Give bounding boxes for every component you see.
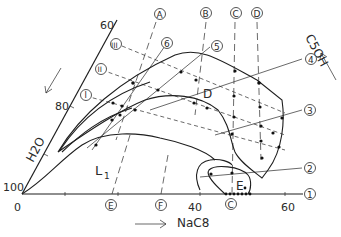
data-point bbox=[209, 172, 212, 175]
tick bbox=[70, 106, 74, 108]
data-point bbox=[120, 104, 123, 107]
label-4: 4 bbox=[306, 54, 317, 65]
line-D bbox=[257, 22, 261, 160]
line-B bbox=[195, 22, 206, 115]
label-I: I bbox=[81, 90, 92, 101]
data-point bbox=[205, 106, 208, 109]
h2o-label: H2O bbox=[23, 135, 48, 165]
nac8-label: NaC8 bbox=[177, 216, 209, 230]
data-point bbox=[233, 69, 236, 72]
data-point bbox=[233, 193, 236, 196]
label-C-bottom: C bbox=[226, 199, 237, 210]
data-point bbox=[118, 113, 121, 116]
d-region-upper bbox=[58, 52, 283, 178]
data-point bbox=[249, 193, 252, 196]
data-point bbox=[110, 118, 113, 121]
data-point bbox=[133, 108, 136, 111]
line-F bbox=[161, 155, 168, 194]
label-E-bottom: E bbox=[106, 200, 117, 211]
region-l1-subscript: 1 bbox=[104, 171, 110, 181]
left-tick-60: 60 bbox=[100, 19, 114, 32]
tick bbox=[44, 154, 48, 156]
data-point bbox=[192, 101, 195, 104]
line-A bbox=[116, 22, 156, 140]
label-5: 5 bbox=[212, 41, 223, 52]
data-point bbox=[237, 193, 240, 196]
line-4 bbox=[150, 59, 302, 110]
svg-text:2: 2 bbox=[307, 164, 313, 174]
label-B: B bbox=[201, 8, 212, 19]
inner-curve-1 bbox=[60, 82, 150, 150]
label-D: D bbox=[252, 8, 263, 19]
data-point bbox=[258, 105, 261, 108]
left-tick-100: 100 bbox=[3, 181, 24, 194]
l1-boundary bbox=[22, 134, 215, 194]
data-point bbox=[259, 139, 262, 142]
line-I bbox=[86, 96, 285, 150]
region-l1: L bbox=[95, 163, 103, 178]
data-points bbox=[94, 69, 283, 195]
region-e: E bbox=[236, 179, 244, 193]
data-point bbox=[271, 131, 274, 134]
data-point bbox=[232, 115, 235, 118]
left-axis bbox=[22, 20, 117, 194]
label-1: 1 bbox=[305, 189, 316, 200]
data-point bbox=[241, 193, 244, 196]
svg-text:F: F bbox=[158, 201, 163, 211]
arrow-down-left-icon bbox=[46, 68, 61, 93]
line-E bbox=[112, 135, 130, 194]
svg-text:A: A bbox=[157, 10, 164, 20]
data-point bbox=[244, 187, 247, 190]
bottom-tick-40: 40 bbox=[188, 201, 202, 214]
data-point bbox=[232, 94, 235, 97]
data-point bbox=[94, 143, 97, 146]
left-axis-label: H2O bbox=[23, 68, 61, 164]
data-point bbox=[245, 193, 248, 196]
svg-text:1: 1 bbox=[307, 190, 313, 200]
data-point bbox=[259, 124, 262, 127]
bottom-axis-label: NaC8 bbox=[135, 216, 209, 230]
data-point bbox=[179, 70, 182, 73]
bottom-tick-60: 60 bbox=[281, 201, 295, 214]
label-3: 3 bbox=[305, 105, 316, 116]
svg-text:3: 3 bbox=[307, 106, 313, 116]
bottom-tick-0: 0 bbox=[14, 201, 21, 214]
svg-text:C: C bbox=[233, 9, 239, 19]
svg-text:II: II bbox=[98, 65, 102, 74]
data-point bbox=[131, 81, 135, 85]
label-6: 6 bbox=[162, 38, 173, 49]
label-C: C bbox=[231, 8, 242, 19]
label-F-bottom: F bbox=[156, 200, 167, 211]
data-point bbox=[257, 81, 261, 85]
label-II: II bbox=[96, 64, 107, 75]
phase-diagram: 0 40 60 60 80 100 NaC8 H2O C5OH bbox=[0, 0, 341, 237]
region-d: D bbox=[203, 87, 212, 101]
data-point bbox=[280, 116, 283, 119]
data-point bbox=[229, 193, 232, 196]
svg-text:III: III bbox=[111, 41, 118, 50]
data-point bbox=[230, 171, 233, 174]
e-region bbox=[208, 167, 251, 194]
data-point bbox=[156, 88, 159, 91]
svg-text:D: D bbox=[254, 9, 261, 19]
label-A: A bbox=[155, 9, 166, 20]
tie-lines bbox=[87, 46, 302, 177]
svg-text:4: 4 bbox=[308, 55, 314, 65]
svg-text:I: I bbox=[85, 91, 87, 100]
data-point bbox=[225, 193, 228, 196]
data-point bbox=[230, 132, 233, 135]
svg-text:B: B bbox=[203, 9, 209, 19]
svg-text:5: 5 bbox=[214, 42, 220, 52]
data-point bbox=[260, 156, 263, 159]
vertical-lines bbox=[112, 22, 261, 194]
label-III: III bbox=[111, 39, 122, 50]
svg-text:E: E bbox=[108, 201, 114, 211]
svg-text:6: 6 bbox=[164, 39, 170, 49]
data-point bbox=[111, 101, 114, 104]
left-tick-80: 80 bbox=[55, 100, 69, 113]
line-3 bbox=[215, 110, 302, 135]
data-point bbox=[277, 145, 280, 148]
data-point bbox=[194, 78, 197, 81]
label-2: 2 bbox=[305, 163, 316, 174]
line-III bbox=[122, 46, 285, 113]
